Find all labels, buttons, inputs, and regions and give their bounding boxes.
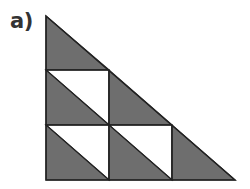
triangle-figure [0,0,250,189]
